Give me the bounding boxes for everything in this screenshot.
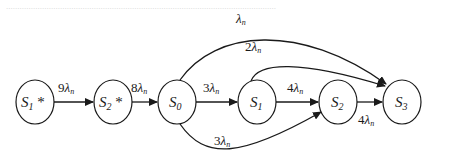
edge-label-4-s1-s2: 4λn [287, 80, 303, 96]
edge-label-2-s1-s3: 2λn [245, 39, 261, 55]
state-diagram: S1 * S2 * S0 S1 S2 S3 9λn 8λn 3λn 4λn 4λ… [0, 0, 456, 164]
node-label-s1-star: S1 * [21, 94, 45, 112]
node-label-s2-star: S2 * [99, 94, 123, 112]
edge-label-3-s0-s1: 3λn [203, 80, 219, 96]
edge-label-1-s0-s3: λn [235, 11, 246, 27]
edge-label-4-s2-s3: 4λn [358, 112, 374, 128]
edge-label-3-s0-s2: 3λn [214, 133, 230, 149]
edge-label-9: 9λn [58, 80, 74, 96]
edge-label-8: 8λn [131, 80, 147, 96]
